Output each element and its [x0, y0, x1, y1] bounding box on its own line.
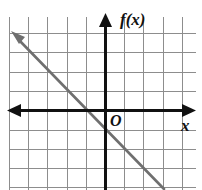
- origin-label: O: [110, 113, 122, 129]
- x-axis-label: x: [181, 117, 190, 134]
- x-axis-group: [7, 104, 196, 117]
- coordinate-plane-svg: [0, 0, 202, 190]
- graph-figure: f(x) x O: [0, 0, 202, 190]
- y-axis-label: f(x): [120, 11, 145, 28]
- function-line: [18, 39, 164, 189]
- y-axis-arrow-up: [99, 13, 112, 27]
- y-axis-group: [99, 13, 112, 190]
- grid-lines: [9, 17, 196, 190]
